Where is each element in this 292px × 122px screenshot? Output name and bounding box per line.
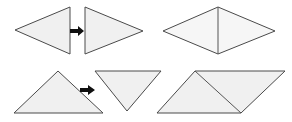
triangle-left-icon xyxy=(15,7,70,54)
diagram-canvas xyxy=(0,0,292,122)
arrow-right-icon xyxy=(70,26,84,36)
triangle-right-icon xyxy=(85,7,143,54)
parallelogram-icon xyxy=(157,71,285,113)
geometry-diagram xyxy=(0,0,292,122)
bottom-row-right-group xyxy=(157,71,285,113)
top-row-right-group xyxy=(163,7,275,54)
triangle-down-icon xyxy=(95,71,161,111)
rhombus-icon xyxy=(163,7,275,54)
top-row-left-group xyxy=(15,7,143,54)
bottom-row-left-group xyxy=(14,71,161,113)
